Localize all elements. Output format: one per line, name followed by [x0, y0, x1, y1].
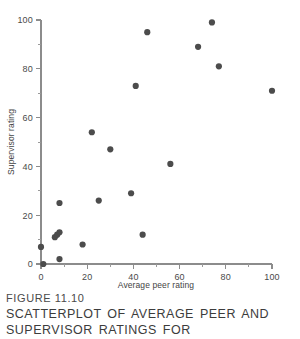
- data-point: [167, 161, 173, 167]
- y-tick-label: 0: [28, 259, 33, 269]
- caption-body: SCATTERPLOT OF AVERAGE PEER AND SUPERVIS…: [6, 307, 294, 338]
- scatterplot-chart: 020406080100020406080100 Average peer ra…: [0, 0, 300, 300]
- x-tick-label: 20: [82, 272, 92, 282]
- y-tick-label: 60: [23, 113, 33, 123]
- figure-container: 020406080100020406080100 Average peer ra…: [0, 0, 300, 300]
- tick-labels-group: 020406080100020406080100: [17, 15, 279, 282]
- data-point: [140, 232, 146, 238]
- y-tick-label: 100: [17, 15, 33, 25]
- data-point: [89, 129, 95, 135]
- x-tick-label: 80: [221, 272, 231, 282]
- axes-group: [41, 20, 272, 264]
- data-point: [209, 19, 215, 25]
- ticks-group: [36, 20, 272, 269]
- figure-caption: FIGURE 11.10 SCATTERPLOT OF AVERAGE PEER…: [6, 291, 294, 338]
- data-point: [40, 261, 46, 267]
- data-point: [269, 88, 275, 94]
- data-point: [96, 197, 102, 203]
- data-point: [79, 241, 85, 247]
- data-point: [56, 229, 62, 235]
- data-point: [195, 44, 201, 50]
- y-axis-title: Supervisor rating: [6, 109, 16, 175]
- caption-line: SUPERVISOR RATINGS FOR: [6, 323, 294, 339]
- data-point: [56, 200, 62, 206]
- data-point: [56, 256, 62, 262]
- y-tick-label: 20: [23, 211, 33, 221]
- data-point: [107, 146, 113, 152]
- data-point: [128, 190, 134, 196]
- x-axis-title: Average peer rating: [118, 280, 195, 290]
- x-tick-label: 100: [264, 272, 280, 282]
- y-tick-label: 40: [23, 162, 33, 172]
- x-tick-label: 0: [38, 272, 43, 282]
- figure-number: FIGURE 11.10: [6, 291, 294, 305]
- caption-line: SCATTERPLOT OF AVERAGE PEER AND: [6, 307, 294, 323]
- data-points-group: [38, 19, 275, 267]
- data-point: [216, 63, 222, 69]
- y-tick-label: 80: [23, 64, 33, 74]
- data-point: [144, 29, 150, 35]
- data-point: [38, 244, 44, 250]
- data-point: [133, 83, 139, 89]
